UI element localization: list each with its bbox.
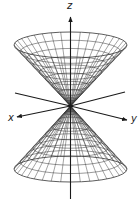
- lower-nappe-radial-line: [27, 106, 70, 161]
- lower-nappe-radial-line: [27, 106, 70, 177]
- lower-nappe-radial-line: [71, 106, 114, 177]
- upper-nappe-radial-line: [42, 34, 70, 106]
- lower-nappe-radial-line: [71, 106, 114, 161]
- x-axis-negative: [71, 92, 126, 106]
- upper-nappe-radial-line: [71, 37, 114, 106]
- upper-nappe-radial-line: [27, 37, 70, 106]
- x-axis-label: x: [7, 112, 14, 123]
- y-axis-label: y: [130, 113, 138, 124]
- lower-nappe-radial-line: [42, 106, 70, 158]
- upper-nappe-radial-line: [71, 34, 99, 106]
- double-cone-figure: z x y: [0, 0, 140, 199]
- upper-nappe-radial-line: [42, 56, 70, 106]
- upper-nappe-radial-line: [71, 56, 99, 106]
- origin-vertex: [69, 104, 72, 107]
- lower-nappe-radial-line: [71, 106, 99, 158]
- z-axis-label: z: [66, 0, 73, 11]
- upper-nappe-radial-line: [14, 45, 71, 106]
